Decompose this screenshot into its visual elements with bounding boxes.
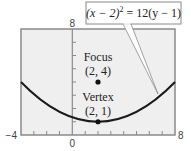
parabola-chart: Focus (2, 4) Vertex (2, 1) −4 0 8 8 (x −… (0, 0, 191, 151)
vertex-point (95, 119, 100, 124)
equation-left: (x − 2) (86, 6, 119, 20)
x-zero-label: 0 (70, 138, 76, 149)
x-max-label: 8 (178, 130, 184, 141)
equation-right: = 12(y − 1) (123, 6, 181, 20)
vertex-coords: (2, 1) (85, 104, 111, 118)
focus-label: Focus (84, 50, 113, 64)
vertex-label: Vertex (82, 90, 113, 104)
focus-coords: (2, 4) (85, 64, 111, 78)
y-max-label: 8 (70, 18, 76, 29)
x-min-label: −4 (6, 130, 18, 141)
equation-text: (x − 2)2 = 12(y − 1) (86, 5, 181, 20)
focus-point (95, 79, 100, 84)
